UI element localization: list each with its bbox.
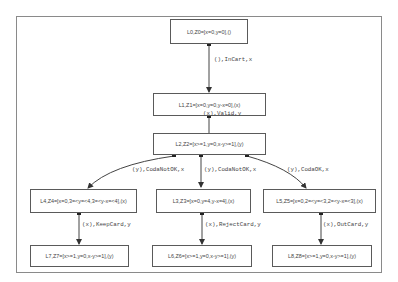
state-node-l2: L2,Z2=[x>=1,y=0,x-y>=1],(y)	[153, 133, 266, 155]
edge-label-l2-l5: (y),CodaOK,x	[287, 166, 329, 173]
state-node-l0: L0,Z0=[x=0,y=0],()	[170, 19, 248, 44]
edge-label-l4-l7: (x),KeepCard,y	[82, 221, 131, 228]
state-node-l4: L4,Z4=[x=0,3=<y=<4,3=<y-x=<4],(x)	[30, 189, 137, 213]
edge-label-l1-l2: (x),Valid,y	[203, 110, 241, 117]
state-node-l3: L3,Z3=[x=0,y=4,y-x=4],(x)	[156, 189, 251, 213]
state-node-l6: L6,Z6=[x>=1,y=0,x-y>=1],(y)	[152, 245, 252, 267]
state-node-l8: L8,Z8=[x>=1,y=0,x-y>=1],(y)	[272, 245, 372, 267]
edge-label-l2-l3: (y),CodaNotOK,x	[204, 166, 256, 173]
edge-label-l2-l4: (y),CodaNotOK,x	[132, 166, 184, 173]
edge-label-l5-l8: (x),OutCard,y	[323, 221, 368, 228]
state-node-l5: L5,Z5=[x=0,2=<y=<3,2=<y-x=<3],(x)	[263, 189, 376, 213]
edge-label-l3-l6: (x),RejectCard,y	[205, 221, 261, 228]
state-node-l7: L7,Z7=[x>=1,y=0,x-y>=1],(y)	[30, 245, 129, 267]
edge-label-l0-l1: (),InCart,x	[214, 56, 252, 63]
